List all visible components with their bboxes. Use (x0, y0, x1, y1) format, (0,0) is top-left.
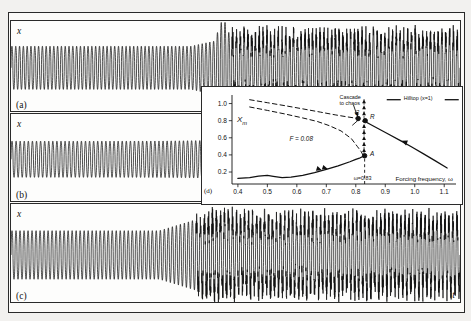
point-R (363, 118, 367, 122)
omega-marker-label: ω=0.83 (354, 175, 372, 181)
y-tick-label: 0.8 (210, 117, 227, 124)
inset-panel-d: 1.00.80.60.40.20.40.50.60.70.80.91.01.1X… (201, 86, 463, 205)
panel-c: x (c) t (10, 203, 461, 303)
cascade-marker (362, 105, 366, 109)
series-lower-stable-branch (238, 156, 365, 179)
cascade-marker (362, 99, 366, 103)
x-tick-label: 1.1 (435, 188, 453, 195)
flow-arrow-lower-2 (316, 166, 322, 171)
panel-a-label: (a) (16, 100, 27, 110)
x-tick-label: 0.7 (317, 188, 335, 195)
panel-c-ylabel: x (17, 209, 21, 219)
axis-lines (232, 95, 456, 184)
figure-root: the springof chaoticand A liesinconditio… (0, 0, 471, 321)
x-tick-label: 0.9 (376, 188, 394, 195)
cascade-marker (362, 111, 366, 115)
cascade-label-line2: to chaos (340, 100, 360, 106)
y-tick-label: 0.6 (210, 134, 227, 141)
y-tick-label: 0.4 (210, 151, 227, 158)
series-unstable-branch-lower-(dashed) (250, 107, 363, 155)
panel-b-ylabel: x (17, 119, 21, 129)
point-label-C: C (355, 109, 360, 116)
panel-b-label: (b) (16, 190, 27, 200)
point-A (362, 154, 366, 158)
x-tick-label: 0.8 (347, 188, 365, 195)
legend-label: Hilltop (x=1) (404, 95, 433, 101)
flow-arrow-lower-1 (322, 165, 328, 170)
panel-c-waveform (11, 204, 460, 302)
y-tick-label: 0.2 (210, 168, 227, 175)
cascade-marker (362, 142, 366, 146)
inset-panel-label: (d) (204, 187, 212, 195)
point-C (356, 116, 360, 120)
x-tick-label: 0.6 (288, 188, 306, 195)
y-axis-label: Xm (237, 115, 247, 126)
x-tick-label: 0.4 (229, 188, 247, 195)
x-tick-label: 1.0 (406, 188, 424, 195)
panel-c-xlabel: t (452, 289, 455, 300)
point-label-A: A (370, 150, 374, 157)
waveform-trace (11, 207, 460, 302)
x-axis-label: Forcing frequency, ω (395, 175, 452, 182)
point-label-R: R (370, 113, 375, 120)
cascade-marker (362, 124, 366, 128)
cascade-marker (362, 130, 366, 134)
panel-a-ylabel: x (17, 26, 21, 36)
cascade-marker (362, 136, 366, 140)
x-tick-label: 0.5 (258, 188, 276, 195)
cascade-marker (362, 148, 366, 152)
force-annotation: F = 0.08 (289, 135, 313, 142)
panel-c-label: (c) (16, 291, 27, 301)
y-tick-label: 1.0 (210, 100, 227, 107)
